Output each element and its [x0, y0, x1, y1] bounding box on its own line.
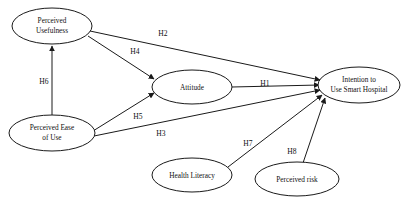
- node-label-perceived-ease-of-use-line2: of Use: [42, 133, 61, 142]
- edge-label-h8: H8: [287, 147, 296, 156]
- edge-label-h1: H1: [260, 79, 269, 88]
- node-label-perceived-usefulness-line2: Usefulness: [36, 26, 68, 35]
- edge-label-h4: H4: [130, 47, 139, 56]
- node-health-literacy: Health Literacy: [152, 158, 232, 192]
- node-attitude: Attitude: [152, 70, 232, 104]
- node-label-intention-line1: Intention to: [342, 75, 376, 84]
- node-label-intention-line2: Use Smart Hospital: [330, 85, 387, 94]
- edge-label-h3: H3: [156, 129, 165, 138]
- node-perceived-usefulness: Perceived Usefulness: [12, 8, 92, 44]
- node-label-attitude: Attitude: [180, 83, 204, 92]
- edge-h1-line: [232, 85, 319, 87]
- node-label-perceived-risk: Perceived risk: [276, 175, 318, 184]
- edge-label-h2: H2: [158, 29, 167, 38]
- edge-h8-line: [303, 98, 325, 163]
- edge-label-h5: H5: [133, 112, 142, 121]
- node-perceived-ease-of-use: Perceived Ease of Use: [9, 115, 95, 151]
- node-label-health-literacy: Health Literacy: [169, 171, 215, 180]
- diagram-canvas: H2 H4 H6 H5 H3 H1 H7 H8 Perceived Useful…: [0, 0, 405, 206]
- node-label-perceived-usefulness-line1: Perceived: [38, 16, 67, 25]
- edge-label-h6: H6: [39, 77, 48, 86]
- edge-label-h7: H7: [243, 139, 252, 148]
- path-model-diagram: H2 H4 H6 H5 H3 H1 H7 H8 Perceived Useful…: [0, 0, 405, 206]
- node-label-perceived-ease-of-use-line1: Perceived Ease: [30, 123, 74, 132]
- node-perceived-risk: Perceived risk: [255, 162, 339, 196]
- node-intention-to-use-smart-hospital: Intention to Use Smart Hospital: [318, 67, 400, 103]
